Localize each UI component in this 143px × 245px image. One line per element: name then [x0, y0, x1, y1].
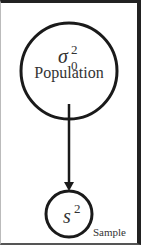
- diagram-canvas: σ 2 0 Population s 2 Sample: [0, 0, 143, 245]
- sample-label: Sample: [93, 226, 126, 238]
- node-sample: s 2 Sample: [46, 191, 126, 238]
- population-superscript: 2: [71, 42, 78, 57]
- sample-superscript: 2: [74, 201, 81, 216]
- sample-symbol: s: [63, 205, 71, 227]
- edge-population-to-sample: [64, 104, 74, 191]
- population-label: Population: [34, 64, 103, 82]
